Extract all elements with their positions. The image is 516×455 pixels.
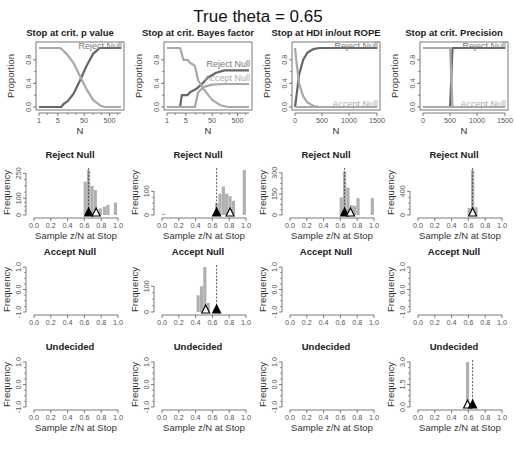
x-tick-label: 0.4 — [191, 318, 201, 327]
y-tick-label: -1.0 — [142, 401, 151, 413]
y-axis-label: Frequency — [1, 362, 12, 407]
x-tick-label: 1000 — [469, 116, 485, 125]
panel-title: Accept Null — [300, 246, 352, 257]
x-tick-label: 0.2 — [302, 221, 312, 230]
y-tick-label: 0.4 — [408, 78, 417, 88]
y-tick-label: 0.4 — [152, 78, 161, 88]
y-axis-label: Frequency — [1, 170, 12, 215]
x-tick-label: 0 — [421, 116, 425, 125]
y-tick-label: 0.0 — [270, 380, 279, 390]
panel-content: Accept Null-1.00.01.0Frequency0.00.20.40… — [385, 246, 507, 327]
bayes-accept-hist-chart: Accept Null0100Frequency0.00.20.40.60.81… — [128, 245, 256, 340]
x-tick-label: 0.0 — [413, 413, 423, 422]
x-tick-label: 0.4 — [63, 221, 73, 230]
x-tick-label: 0.4 — [63, 318, 73, 327]
panel-content: Undecided0.01.53.0Frequency0.00.20.40.60… — [385, 341, 507, 433]
x-tick-label: 5 — [184, 116, 188, 125]
x-axis-label: Sample z/N at Stop — [291, 230, 373, 241]
x-tick-label: 0.6 — [335, 413, 345, 422]
precision-proportion-chart: Stop at crit. Precision0.00.40.805001000… — [384, 28, 512, 136]
panel-title: Undecided — [174, 341, 223, 352]
y-axis-label: Frequency — [385, 362, 396, 407]
x-tick-label: 5 — [56, 116, 60, 125]
panel-title: Stop at crit. Bayes factor — [142, 27, 254, 38]
x-axis-label: N — [205, 125, 212, 136]
y-tick-label: 400 — [398, 185, 407, 197]
y-axis-label: Frequency — [257, 170, 268, 215]
y-tick-label: 100 — [142, 280, 151, 292]
panel-content: Stop at crit. Precision0.00.40.805001000… — [389, 27, 513, 136]
panel-content: Accept Null0100Frequency0.00.20.40.60.81… — [129, 246, 251, 327]
x-tick-label: 1000 — [341, 116, 357, 125]
x-tick-label: 0.4 — [63, 413, 73, 422]
x-tick-label: 0.8 — [352, 413, 362, 422]
panel-title: Reject Null — [45, 149, 94, 160]
bayes-factor-proportion-chart: Stop at crit. Bayes factor0.00.40.815505… — [128, 28, 256, 136]
y-tick-label: -1.0 — [14, 306, 23, 318]
x-tick-label: 0.8 — [480, 413, 490, 422]
x-tick-label: 0.8 — [352, 221, 362, 230]
histogram-bar — [371, 198, 374, 215]
x-axis-label: N — [333, 125, 340, 136]
panel-content: Reject Null0400Frequency0.00.20.40.60.81… — [385, 149, 507, 241]
precision-undecided-hist-chart: Undecided0.01.53.0Frequency0.00.20.40.60… — [384, 340, 512, 435]
panel-content: Stop at crit. Bayes factor0.00.40.815505… — [133, 27, 254, 136]
y-tick-label: 0.0 — [408, 102, 417, 112]
panel-title: Stop at HDI in/out ROPE — [271, 27, 380, 38]
y-tick-label: 3.0 — [398, 357, 407, 367]
panel-title: Undecided — [430, 341, 479, 352]
histogram-bar — [356, 198, 359, 215]
panel-title: Stop at crit. p value — [26, 27, 114, 38]
x-tick-label: 0.0 — [29, 413, 39, 422]
panel-content: Undecided-1.00.01.0Frequency0.00.20.40.6… — [1, 341, 123, 433]
x-tick-label: 0.4 — [319, 413, 329, 422]
x-tick-label: 1.0 — [241, 318, 251, 327]
x-tick-label: 0.6 — [79, 221, 89, 230]
y-tick-label: 0.0 — [398, 285, 407, 295]
y-tick-label: 1.0 — [270, 262, 279, 272]
panel-title: Reject Null — [429, 149, 478, 160]
x-axis-label: N — [461, 125, 468, 136]
x-tick-label: 0.8 — [352, 318, 362, 327]
y-axis-label: Frequency — [257, 362, 268, 407]
precision-reject-hist-chart: Reject Null0400Frequency0.00.20.40.60.81… — [384, 148, 512, 243]
x-tick-label: 0.4 — [319, 221, 329, 230]
x-tick-label: 1.0 — [369, 413, 379, 422]
x-tick-label: 1.0 — [241, 413, 251, 422]
y-tick-label: 0.4 — [24, 78, 33, 88]
panel-title: Accept Null — [428, 246, 480, 257]
x-tick-label: 0.6 — [463, 221, 473, 230]
hdi-undecided-hist-chart: Undecided-1.00.01.0Frequency0.00.20.40.6… — [256, 340, 384, 435]
y-tick-label: 0 — [398, 213, 407, 217]
y-axis-label: Proportion — [261, 54, 272, 98]
y-axis-label: Frequency — [385, 267, 396, 312]
x-tick-label: 0.0 — [157, 318, 167, 327]
y-tick-label: 300 — [270, 167, 279, 179]
x-tick-label: 0.2 — [430, 413, 440, 422]
x-tick-label: 0.4 — [191, 221, 201, 230]
x-tick-label: 0.0 — [157, 413, 167, 422]
y-tick-label: 0.0 — [14, 285, 23, 295]
y-tick-label: 0.8 — [152, 55, 161, 65]
series-undecided — [39, 48, 121, 107]
panel-title: Stop at crit. Precision — [405, 27, 503, 38]
y-tick-label: -1.0 — [270, 306, 279, 318]
x-tick-label: 0.2 — [302, 413, 312, 422]
x-tick-label: 0.6 — [79, 413, 89, 422]
x-tick-label: 0.2 — [430, 221, 440, 230]
y-tick-label: 1.0 — [270, 357, 279, 367]
x-axis-label: Sample z/N at Stop — [291, 422, 373, 433]
histogram-bar — [197, 295, 200, 312]
panel-content: Undecided-1.00.01.0Frequency0.00.20.40.6… — [257, 341, 379, 433]
x-tick-label: 0.4 — [447, 318, 457, 327]
x-tick-label: 0.4 — [191, 413, 201, 422]
precision-accept-hist-chart: Accept Null-1.00.01.0Frequency0.00.20.40… — [384, 245, 512, 340]
x-tick-label: 0.2 — [430, 318, 440, 327]
histogram-bar — [162, 214, 165, 215]
y-tick-label: 0.0 — [270, 285, 279, 295]
y-axis-label: Frequency — [385, 170, 396, 215]
x-tick-label: 0.2 — [174, 221, 184, 230]
histogram-bar — [114, 203, 117, 216]
y-tick-label: 0 — [14, 213, 23, 217]
x-tick-label: 0.4 — [447, 413, 457, 422]
